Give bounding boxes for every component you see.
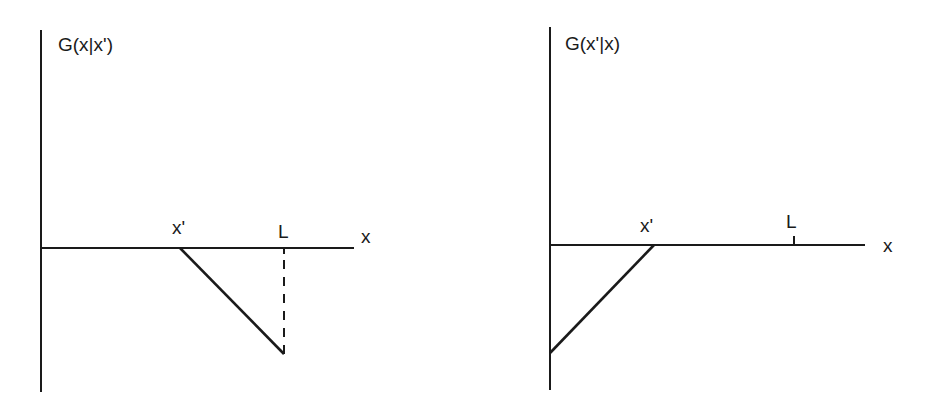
green-function-diagrams: G(x|x') x x' L G(x'|x) x x' L (0, 0, 934, 405)
left-source-point-label: x' (172, 217, 185, 238)
right-x-axis-label: x (883, 235, 893, 256)
right-source-point-label: x' (640, 215, 653, 236)
right-boundary-label: L (786, 211, 797, 232)
left-x-axis-label: x (361, 226, 371, 247)
left-boundary-label: L (278, 221, 289, 242)
right-green-function-curve (550, 245, 654, 353)
right-y-axis-label: G(x'|x) (565, 33, 620, 54)
left-y-axis-label: G(x|x') (58, 34, 113, 55)
left-green-function-curve (180, 248, 284, 354)
left-panel: G(x|x') x x' L (41, 30, 371, 392)
right-panel: G(x'|x) x x' L (550, 27, 893, 390)
